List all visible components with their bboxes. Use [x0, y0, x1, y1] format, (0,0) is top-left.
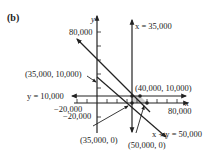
x-tick-80000: 80,000	[168, 107, 191, 116]
label-point-50000-0: (50,000, 0)	[128, 141, 166, 150]
label-point-35000-10000: (35,000, 10,000)	[25, 70, 82, 79]
panel-label: (b)	[7, 13, 19, 23]
label-y-10000: y = 10,000	[27, 92, 64, 101]
label-x-plus-y-50000: x + y = 50,000	[152, 130, 202, 139]
y-axis-label: y	[91, 15, 95, 24]
label-x-35000: x = 35,000	[135, 22, 172, 31]
label-point-35000-0: (35,000, 0)	[80, 136, 118, 145]
point-35000-10000	[130, 94, 134, 98]
x-tick-neg20000: −20,000	[54, 105, 82, 114]
point-50000-0	[145, 101, 149, 105]
point-35000-0	[130, 101, 134, 105]
label-point-40000-10000: (40,000, 10,000)	[135, 84, 192, 93]
line-upper-diagonal	[77, 39, 150, 112]
y-tick-80000: 80,000	[69, 28, 92, 37]
point-40000-10000	[138, 94, 142, 98]
